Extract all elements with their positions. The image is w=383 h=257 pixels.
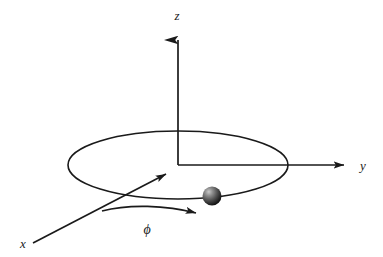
x-axis-label: x: [19, 236, 26, 251]
figure-canvas: z y x ϕ: [0, 0, 383, 257]
z-axis-label: z: [173, 8, 179, 23]
y-axis-label: y: [358, 158, 366, 173]
particle-sphere: [203, 187, 222, 206]
coordinate-system-figure: z y x ϕ: [0, 0, 383, 257]
phi-arc: [102, 206, 196, 213]
phi-angle-label: ϕ: [143, 222, 150, 237]
